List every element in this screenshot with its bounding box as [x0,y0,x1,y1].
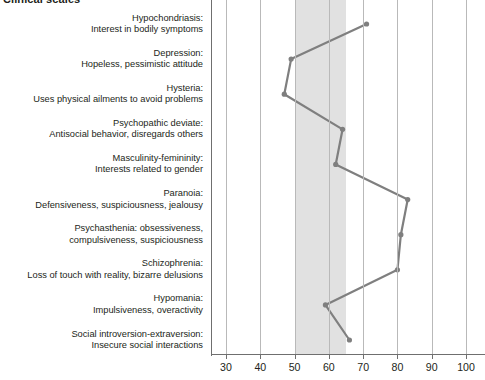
x-tick-label: 70 [357,361,369,373]
gridline-80 [397,0,398,354]
scale-label-7: Psychasthenia: obsessiveness,compulsiven… [0,223,203,246]
chart-title: Clinical scales [3,0,80,5]
gridline-70 [363,0,364,354]
tick-90 [432,354,433,359]
scale-name: Psychopathic deviate: [0,118,203,129]
gridline-90 [432,0,433,354]
scale-description: Uses physical ailments to avoid problems [0,94,203,105]
scale-label-1: Hypochondriasis:Interest in bodily sympt… [0,13,203,36]
data-point-10 [347,337,352,342]
mmpi-profile-chart: Clinical scales Hypochondriasis:Interest… [0,0,485,380]
plot-area [211,0,485,356]
scale-name: Hypochondriasis: [0,13,203,24]
scale-name: Hypomania: [0,293,203,304]
x-tick-label: 30 [220,361,232,373]
scale-name: Social introversion-extraversion: [0,329,203,340]
scale-label-5: Masculinity-femininity:Interests related… [0,153,203,176]
scale-label-10: Social introversion-extraversion:Insecur… [0,329,203,352]
data-point-2 [289,57,294,62]
scale-name: Paranoia: [0,188,203,199]
scale-label-column: Hypochondriasis:Interest in bodily sympt… [0,8,209,356]
scale-description: Hopeless, pessimistic attitude [0,59,203,70]
scale-description: compulsiveness, suspiciousness [0,235,203,246]
data-point-3 [282,92,287,97]
x-tick-label: 40 [254,361,266,373]
data-point-7 [398,232,403,237]
scale-name: Depression: [0,48,203,59]
scale-name: Hysteria: [0,83,203,94]
scale-description: Interests related to gender [0,164,203,175]
scale-label-2: Depression:Hopeless, pessimistic attitud… [0,48,203,71]
gridline-60 [329,0,330,354]
data-point-6 [405,197,410,202]
scale-description: Loss of touch with reality, bizarre delu… [0,270,203,281]
scale-name: Masculinity-femininity: [0,153,203,164]
scale-name: Schizophrenia: [0,258,203,269]
tick-60 [329,354,330,359]
tick-30 [226,354,227,359]
x-axis-tick-labels: 30405060708090100 [211,361,485,377]
scale-description: Interest in bodily symptoms [0,24,203,35]
data-point-4 [340,127,345,132]
tick-40 [260,354,261,359]
scale-label-3: Hysteria:Uses physical ailments to avoid… [0,83,203,106]
tick-50 [295,354,296,359]
gridline-40 [260,0,261,354]
x-tick-label: 60 [323,361,335,373]
tick-100 [466,354,467,359]
tick-70 [363,354,364,359]
scale-description: Antisocial behavior, disregards others [0,129,203,140]
scale-description: Defensiveness, suspiciousness, jealousy [0,200,203,211]
x-tick-label: 100 [457,361,475,373]
scale-label-9: Hypomania:Impulsiveness, overactivity [0,293,203,316]
scale-label-4: Psychopathic deviate:Antisocial behavior… [0,118,203,141]
profile-line-series [211,0,485,356]
x-tick-label: 80 [392,361,404,373]
scale-description: Impulsiveness, overactivity [0,305,203,316]
plot-inner [211,0,485,356]
gridline-100 [466,0,467,354]
scale-name: Psychasthenia: obsessiveness, [0,223,203,234]
x-tick-label: 50 [289,361,301,373]
scale-label-6: Paranoia:Defensiveness, suspiciousness, … [0,188,203,211]
scale-label-8: Schizophrenia:Loss of touch with reality… [0,258,203,281]
gridline-50 [295,0,296,354]
data-point-1 [364,21,369,26]
x-tick-label: 90 [426,361,438,373]
profile-polyline [284,24,407,340]
data-point-9 [323,302,328,307]
tick-80 [397,354,398,359]
scale-description: Insecure social interactions [0,340,203,351]
gridline-30 [226,0,227,354]
data-point-5 [333,162,338,167]
